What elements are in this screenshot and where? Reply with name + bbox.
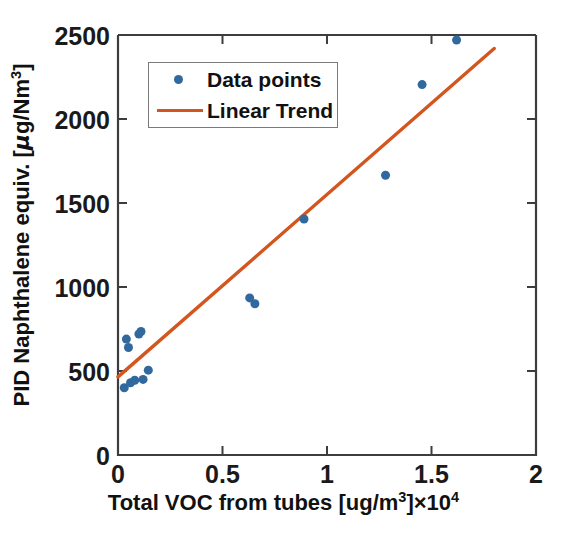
legend-marker-dot-icon <box>149 75 207 84</box>
y-tick-label-2000: 2000 <box>38 108 110 133</box>
y-axis-title-exp-3: 3 <box>8 71 24 79</box>
legend-item-data-points[interactable]: Data points <box>149 63 337 96</box>
x-axis-title-mid: ]×10 <box>406 490 451 515</box>
legend-label-linear-trend: Linear Trend <box>207 99 333 123</box>
y-axis-title-wrapper: PID Naphthalene equiv. [μg/Nm3] <box>0 0 44 470</box>
y-axis-title-close: ] <box>9 64 34 71</box>
y-axis-title: PID Naphthalene equiv. [μg/Nm3] <box>9 64 35 407</box>
data-point-marker <box>250 299 259 308</box>
y-tick-label-1500: 1500 <box>38 192 110 217</box>
x-tick-label-1: 1 <box>297 462 357 487</box>
y-axis-title-main: PID Naphthalene equiv. [ <box>9 150 34 406</box>
x-tick-label-2: 2 <box>506 462 566 487</box>
data-point-marker <box>418 80 427 89</box>
x-tick-label-1.5: 1.5 <box>402 462 462 487</box>
x-axis-title: Total VOC from tubes [ug/m3]×104 <box>0 492 567 514</box>
data-point-marker <box>124 343 133 352</box>
legend-label-data-points: Data points <box>207 68 321 92</box>
y-tick-label-500: 500 <box>38 360 110 385</box>
data-point-marker <box>136 327 145 336</box>
data-point-marker <box>139 375 148 384</box>
data-point-marker <box>122 335 131 344</box>
data-point-marker <box>381 171 390 180</box>
chart-legend[interactable]: Data points Linear Trend <box>148 62 338 128</box>
data-point-marker <box>130 376 139 385</box>
x-tick-label-0: 0 <box>88 462 148 487</box>
data-point-marker <box>300 214 309 223</box>
data-point-marker <box>452 36 461 45</box>
y-axis-title-unit: g/Nm <box>9 79 34 134</box>
y-axis-title-mu: μ <box>9 134 34 150</box>
y-tick-label-2500: 2500 <box>38 24 110 49</box>
legend-line-swatch-icon <box>149 109 207 112</box>
chart-figure: 2500 2000 1500 1000 500 0 0 0.5 1 1.5 2 … <box>0 0 567 534</box>
x-axis-title-exp-4: 4 <box>451 489 459 505</box>
x-tick-label-0.5: 0.5 <box>193 462 253 487</box>
x-axis-title-main: Total VOC from tubes [ug/m <box>108 490 398 515</box>
data-point-marker <box>144 366 153 375</box>
legend-item-linear-trend[interactable]: Linear Trend <box>149 94 337 127</box>
y-tick-label-1000: 1000 <box>38 276 110 301</box>
